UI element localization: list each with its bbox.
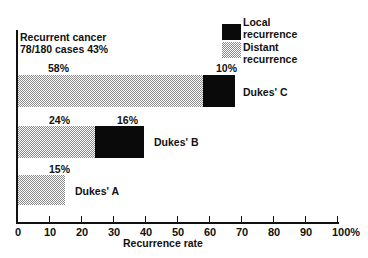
bar-b-distant bbox=[18, 126, 95, 158]
bar-c-distant-value: 58% bbox=[48, 62, 69, 74]
x-tick-label: 20 bbox=[76, 226, 88, 238]
x-tick-label: 70 bbox=[236, 226, 248, 238]
x-tick bbox=[305, 216, 306, 222]
bar-a-distant bbox=[18, 175, 65, 205]
x-tick-label: 30 bbox=[108, 226, 120, 238]
bar-b-label: Dukes' B bbox=[154, 136, 199, 148]
x-tick bbox=[177, 216, 178, 222]
bar-a-label: Dukes' A bbox=[75, 185, 119, 197]
legend-distant-label-2: recurrence bbox=[243, 53, 297, 65]
bar-a-distant-value: 15% bbox=[49, 163, 70, 175]
legend: Local recurrence Distant recurrence bbox=[222, 16, 342, 64]
x-axis-title: Recurrence rate bbox=[123, 237, 203, 249]
chart-title: Recurrent cancer bbox=[20, 31, 106, 43]
x-axis bbox=[16, 222, 339, 224]
x-tick-label: 100% bbox=[332, 226, 360, 238]
legend-distant-label-1: Distant bbox=[243, 41, 279, 53]
legend-distant-swatch bbox=[222, 42, 241, 58]
legend-local-swatch bbox=[222, 24, 241, 40]
bar-c-local-value: 10% bbox=[216, 62, 237, 74]
x-tick bbox=[81, 216, 82, 222]
bar-b-distant-value: 24% bbox=[49, 114, 70, 126]
x-tick-label: 10 bbox=[44, 226, 56, 238]
bar-b-local bbox=[95, 126, 144, 158]
legend-local-label-1: Local bbox=[243, 16, 270, 28]
x-tick bbox=[145, 216, 146, 222]
x-tick-label: 90 bbox=[300, 226, 312, 238]
x-tick bbox=[209, 216, 210, 222]
x-tick bbox=[241, 216, 242, 222]
legend-local-label-2: recurrence bbox=[243, 28, 297, 40]
bar-b-local-value: 16% bbox=[117, 114, 138, 126]
bar-c-distant bbox=[18, 75, 203, 107]
x-tick bbox=[49, 216, 50, 222]
x-tick-label: 80 bbox=[268, 226, 280, 238]
x-tick-label: 0 bbox=[15, 226, 21, 238]
x-tick bbox=[337, 216, 338, 222]
bar-c-label: Dukes' C bbox=[243, 86, 288, 98]
x-tick-label: 60 bbox=[204, 226, 216, 238]
x-tick bbox=[273, 216, 274, 222]
chart-subtitle: 78/180 cases 43% bbox=[20, 43, 108, 55]
x-tick bbox=[113, 216, 114, 222]
bar-c-local bbox=[203, 75, 235, 107]
